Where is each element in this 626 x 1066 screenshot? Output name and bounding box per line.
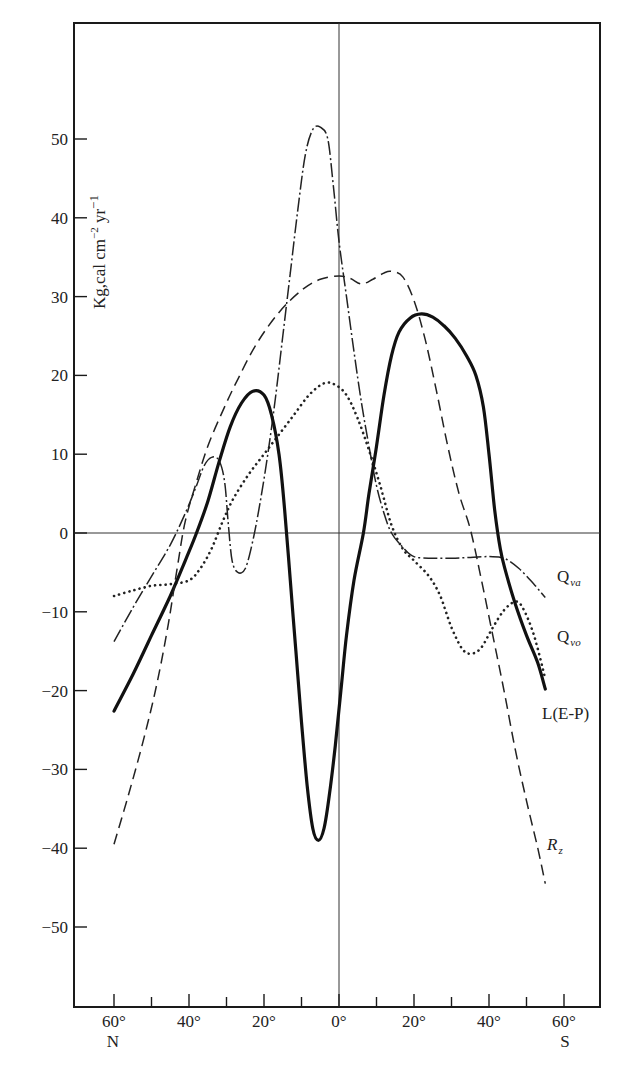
series-label-q-va: Qva bbox=[557, 567, 581, 588]
y-tick-label: −40 bbox=[41, 839, 68, 858]
series-q-va-line bbox=[114, 126, 545, 642]
y-tick-label: −10 bbox=[41, 603, 68, 622]
y-axis: 50403020100−10−20−30−40−50 bbox=[41, 130, 87, 937]
hemisphere-label-north: N bbox=[107, 1032, 119, 1051]
y-tick-label: 40 bbox=[51, 209, 68, 228]
series-label-q-vo: Qvo bbox=[557, 627, 581, 648]
y-tick-label: −30 bbox=[41, 760, 68, 779]
y-axis-label: Kg,cal cm−2 yr−1 bbox=[86, 195, 109, 309]
x-tick-label: 0° bbox=[331, 1012, 346, 1031]
y-tick-label: 20 bbox=[51, 366, 68, 385]
series-label-r-z: Rz bbox=[546, 835, 563, 856]
y-tick-label: −50 bbox=[41, 918, 68, 937]
series-l-e-p-line bbox=[114, 314, 545, 840]
series-layer bbox=[114, 126, 545, 884]
series-q-vo-line bbox=[114, 383, 545, 679]
x-tick-label: 60° bbox=[552, 1012, 576, 1031]
y-tick-label: 0 bbox=[60, 524, 69, 543]
plot-frame bbox=[74, 23, 600, 1007]
x-tick-label: 20° bbox=[402, 1012, 426, 1031]
y-tick-label: 30 bbox=[51, 288, 68, 307]
y-tick-label: 50 bbox=[51, 130, 68, 149]
y-tick-label: 10 bbox=[51, 445, 68, 464]
x-tick-label: 40° bbox=[477, 1012, 501, 1031]
hemisphere-label-south: S bbox=[560, 1032, 569, 1051]
x-tick-label: 40° bbox=[177, 1012, 201, 1031]
chart-figure: 50403020100−10−20−30−40−50 60°40°20°0°20… bbox=[0, 0, 626, 1066]
series-label-l-e-p: L(E-P) bbox=[542, 704, 589, 723]
x-axis: 60°40°20°0°20°40°60°NS bbox=[102, 994, 576, 1051]
x-tick-label: 20° bbox=[252, 1012, 276, 1031]
zero-reference-lines bbox=[74, 23, 600, 1007]
x-tick-label: 60° bbox=[102, 1012, 126, 1031]
frame-border bbox=[74, 23, 600, 1007]
y-tick-label: −20 bbox=[41, 682, 68, 701]
series-labels: QvaQvoL(E-P)Rz bbox=[542, 567, 589, 856]
